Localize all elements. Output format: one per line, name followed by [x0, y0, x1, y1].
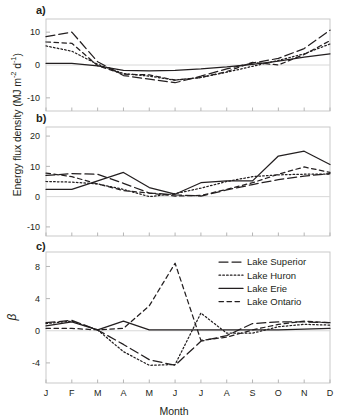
legend-label-lake-huron: Lake Huron [247, 270, 296, 281]
y-tick-label: 10 [30, 27, 40, 37]
x-tick-label-m-4: M [146, 388, 154, 398]
y-tick-label: 0 [35, 192, 40, 202]
series-line-lake-huron [46, 44, 330, 80]
legend-label-lake-superior: Lake Superior [247, 256, 306, 267]
series-line-lake-erie [46, 54, 330, 71]
x-tick-label-s-8: S [250, 388, 256, 398]
panel-letter-c: c) [36, 240, 46, 252]
x-tick-label-m-2: M [94, 388, 102, 398]
panel-b: 20100-10 [27, 127, 330, 236]
x-tick-label-n-10: N [301, 388, 308, 398]
y-tick-label: 8 [35, 262, 40, 272]
y-axis-label-energy: Energy flux density (MJ m-2 d-1) [9, 25, 23, 225]
x-tick-label-j-6: J [199, 388, 204, 398]
y-axis-label-beta: β [5, 299, 19, 335]
x-tick-label-f-1: F [69, 388, 75, 398]
x-tick-label-j-5: J [173, 388, 178, 398]
legend-label-lake-ontario: Lake Ontario [247, 296, 301, 307]
series-line-lake-huron [46, 174, 330, 196]
y-tick-label: -10 [27, 222, 40, 232]
y-tick-label: 10 [30, 162, 40, 172]
panel-letter-a: a) [36, 4, 46, 16]
series-line-lake-erie [46, 151, 330, 194]
y-tick-label: 4 [35, 294, 40, 304]
x-axis-label: Month [0, 405, 348, 417]
legend: Lake SuperiorLake HuronLake ErieLake Ont… [219, 256, 306, 307]
panel-letter-b: b) [36, 112, 46, 124]
legend-label-lake-erie: Lake Erie [247, 283, 287, 294]
chart-svg: 100-10 20100-10 840-4 Lake SuperiorLake … [0, 0, 348, 420]
x-tick-label-d-11: D [327, 388, 334, 398]
y-tick-label: 0 [35, 326, 40, 336]
y-tick-label: 20 [30, 131, 40, 141]
series-line-lake-superior [46, 174, 330, 196]
panel-a: 100-10 [27, 19, 330, 111]
x-tick-label-a-3: A [120, 388, 126, 398]
y-tick-label: -10 [27, 93, 40, 103]
figure-container: Energy flux density (MJ m-2 d-1) β Month… [0, 0, 348, 420]
x-axis-tick-labels: JFMAMJJASOND [44, 388, 334, 398]
y-tick-label: 0 [35, 60, 40, 70]
series-line-lake-superior [46, 30, 330, 83]
series-line-lake-huron [46, 313, 330, 365]
x-tick-label-a-7: A [224, 388, 230, 398]
series-line-lake-ontario [46, 167, 330, 196]
x-tick-label-o-9: O [275, 388, 282, 398]
y-tick-label: -4 [32, 358, 40, 368]
x-tick-label-j-0: J [44, 388, 49, 398]
